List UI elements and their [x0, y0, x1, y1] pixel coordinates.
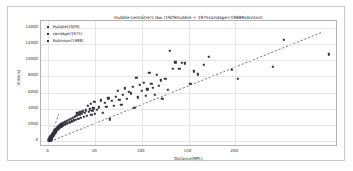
x-tick-label: 100 — [126, 149, 156, 153]
legend-marker-icon — [47, 40, 49, 42]
y-tick-label: 0 — [4, 138, 38, 142]
x-axis-label: Distance(MPc) — [40, 156, 337, 161]
gridline-vertical — [95, 21, 96, 145]
y-tick-label: 4000 — [4, 106, 38, 110]
chart-title: Hubble-Lemaître's law (1929Hubble + 1975… — [40, 15, 337, 20]
legend-item[interactable]: Hubble(1929) — [47, 25, 84, 30]
legend-label: sandage(1975) — [53, 32, 83, 36]
y-tick-label: 12000 — [4, 41, 38, 45]
legend-label: Robinson(1988) — [53, 39, 84, 43]
x-tick-label: 150 — [173, 149, 203, 153]
legend-item[interactable]: Robinson(1988) — [47, 39, 84, 44]
x-axis-tick-labels: 050100150200 — [40, 149, 337, 155]
x-tick-label: 50 — [79, 149, 109, 153]
legend: Hubble(1929)sandage(1975)Robinson(1988) — [47, 25, 84, 43]
x-tick-label: 200 — [219, 149, 249, 153]
y-tick-label: 8000 — [4, 73, 38, 77]
y-tick-label: 6000 — [4, 90, 38, 94]
x-tick-label: 0 — [32, 149, 62, 153]
legend-marker-icon — [47, 26, 49, 28]
legend-item[interactable]: sandage(1975) — [47, 32, 84, 37]
plot-area — [40, 20, 337, 146]
y-tick-label: 10000 — [4, 57, 38, 61]
gridline-vertical — [235, 21, 236, 145]
figure: Hubble-Lemaître's law (1929Hubble + 1975… — [0, 0, 353, 171]
legend-label: Hubble(1929) — [53, 25, 80, 29]
y-axis-tick-labels: 02000400060008000100001200014000 — [2, 20, 38, 146]
y-tick-label: 2000 — [4, 122, 38, 126]
y-tick-label: 14000 — [4, 25, 38, 29]
legend-marker-icon — [47, 33, 49, 35]
